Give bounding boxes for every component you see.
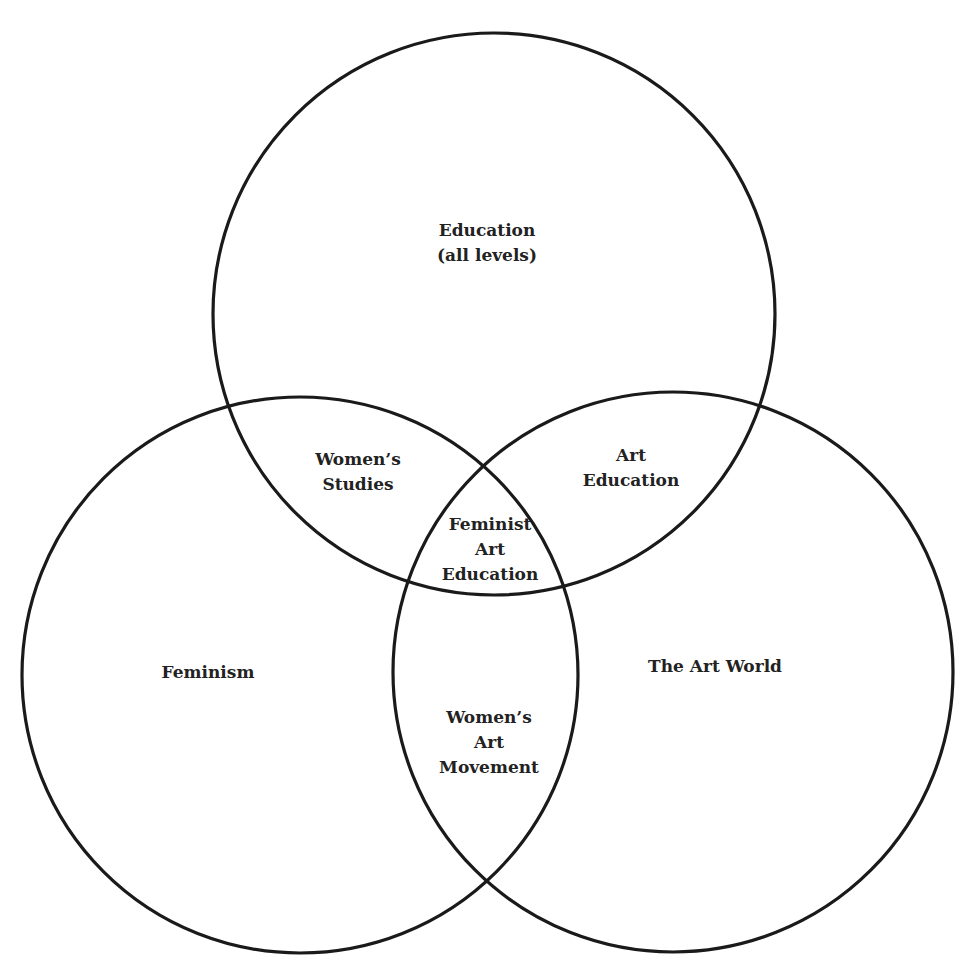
label-art-education: Art Education (583, 443, 680, 493)
circle-feminism (22, 397, 578, 953)
circle-education (213, 33, 775, 595)
label-womens-art-movement: Women’s Art Movement (439, 705, 539, 780)
label-feminist-art-education: Feminist Art Education (442, 512, 539, 587)
venn-diagram (0, 0, 976, 978)
label-education: Education (all levels) (437, 218, 537, 268)
label-womens-studies: Women’s Studies (315, 447, 401, 497)
label-art-world: The Art World (648, 654, 782, 679)
label-feminism: Feminism (162, 660, 255, 685)
